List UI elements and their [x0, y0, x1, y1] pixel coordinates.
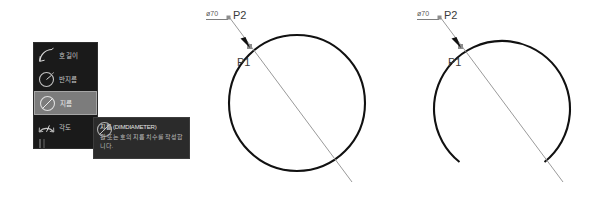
menu-item-radius[interactable]: 반지름 [34, 67, 97, 91]
arc-length-icon [37, 46, 56, 65]
circle-dimension-label: ø70 [206, 10, 218, 17]
diameter-leader-line [230, 18, 353, 183]
p2-marker [227, 16, 231, 20]
menu-item-angle[interactable]: 각도 [34, 115, 97, 139]
menu-item-arc-length[interactable]: 호 길이 [34, 43, 97, 67]
diameter-leader-line [441, 18, 564, 183]
p2-marker [438, 16, 442, 20]
menu-item-diameter[interactable]: 지름 [34, 91, 97, 115]
ordinate-icon [37, 139, 56, 148]
menu-item-label: 각도 [59, 122, 71, 132]
circle-diagram [206, 16, 365, 183]
menu-item-label: 지름 [60, 98, 72, 108]
arc-p1-label: P1 [448, 56, 461, 68]
arc-p2-label: P2 [444, 9, 457, 21]
tooltip-diameter-icon [95, 120, 114, 139]
menu-item-label: 반지름 [59, 74, 76, 84]
angle-icon [37, 118, 56, 137]
radius-icon [37, 70, 56, 89]
menu-item-label: 호 길이 [59, 50, 78, 60]
circle-p2-label: P2 [233, 9, 246, 21]
arc-dimension-label: ø70 [417, 10, 429, 17]
dimension-type-menu[interactable]: 호 길이 반지름 지름 각도 [33, 42, 98, 149]
arc-diagram [417, 16, 570, 183]
diameter-icon [38, 94, 57, 113]
circle-p1-label: P1 [237, 56, 250, 68]
menu-item-ordinate[interactable] [34, 139, 97, 148]
